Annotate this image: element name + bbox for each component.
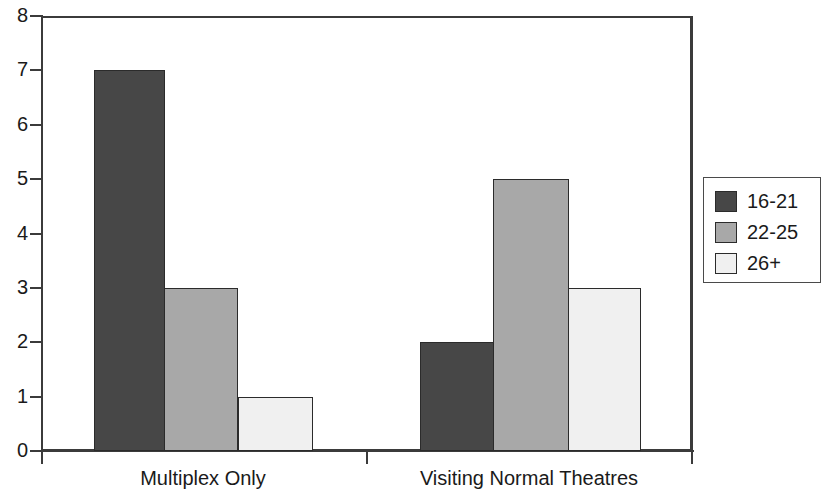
legend-item: 26+ (715, 248, 820, 278)
legend-swatch-22-25 (715, 222, 737, 243)
legend-label: 16-21 (747, 191, 798, 211)
legend-label: 26+ (747, 253, 781, 273)
x-axis-tick (366, 451, 368, 464)
legend: 16-21 22-25 26+ (703, 177, 821, 283)
bar (238, 397, 313, 451)
legend-item: 16-21 (715, 186, 820, 216)
x-axis-tick (691, 451, 693, 464)
bar (568, 288, 641, 451)
legend-swatch-16-21 (715, 191, 737, 212)
bar (493, 179, 569, 451)
x-axis-category-label: Multiplex Only (43, 466, 363, 490)
bar (94, 70, 165, 451)
x-axis-category-label: Visiting Normal Theatres (369, 466, 689, 490)
legend-item: 22-25 (715, 217, 820, 247)
legend-swatch-26plus (715, 253, 737, 274)
bars-layer (0, 0, 807, 451)
x-axis-tick (41, 451, 43, 464)
bar (164, 288, 238, 451)
bar (420, 342, 494, 451)
legend-label: 22-25 (747, 222, 798, 242)
